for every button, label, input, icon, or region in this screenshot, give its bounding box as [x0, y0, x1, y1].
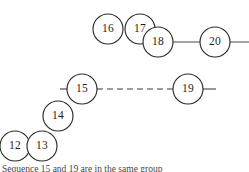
- node-label-19: 19: [182, 82, 194, 94]
- node-label-13: 13: [36, 139, 48, 151]
- node-16[interactable]: 16: [93, 14, 123, 44]
- node-13[interactable]: 13: [27, 131, 57, 161]
- node-label-15: 15: [76, 82, 88, 94]
- node-label-20: 20: [209, 35, 221, 47]
- node-label-16: 16: [102, 22, 114, 34]
- figure-caption: Sequence 15 and 19 are in the same group: [2, 164, 162, 172]
- node-chain-figure: 161718201519141213 Sequence 15 and 19 ar…: [0, 0, 249, 172]
- figure-canvas: 161718201519141213: [0, 0, 249, 172]
- node-14[interactable]: 14: [43, 101, 73, 131]
- node-label-17: 17: [134, 22, 146, 34]
- node-12[interactable]: 12: [0, 131, 30, 161]
- figure-caption-clip: Sequence 15 and 19 are in the same group: [0, 164, 249, 172]
- node-20[interactable]: 20: [200, 27, 230, 57]
- node-19[interactable]: 19: [173, 74, 203, 104]
- node-label-18: 18: [152, 35, 164, 47]
- node-label-12: 12: [9, 139, 21, 151]
- node-18[interactable]: 18: [143, 27, 173, 57]
- node-layer: 161718201519141213: [0, 14, 230, 161]
- node-15[interactable]: 15: [67, 74, 97, 104]
- node-label-14: 14: [52, 109, 64, 121]
